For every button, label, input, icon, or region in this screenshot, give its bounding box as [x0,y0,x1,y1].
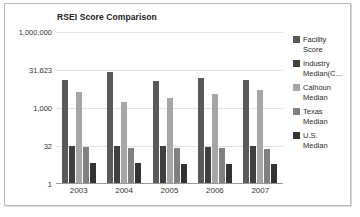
bar [167,98,173,185]
bar [69,146,75,184]
legend-swatch-icon [293,132,300,139]
chart-title: RSEI Score Comparison [57,12,157,22]
bar-group-2005 [147,32,192,184]
chart-legend: FacilityScoreIndustryMedian(C...CalhounM… [293,35,359,155]
bar [250,146,256,184]
bar [160,146,166,184]
x-axis-tick-label: 2003 [56,186,101,202]
bar-group-2003 [56,32,101,184]
plot-area [56,32,283,184]
bar [107,72,113,184]
bar [174,148,180,184]
bar [243,80,249,184]
bar [62,80,68,184]
x-axis-tick-label: 2007 [238,186,283,202]
bar [219,148,225,184]
bar-group-2006 [192,32,237,184]
y-axis-tick-label: 32 [44,141,52,150]
legend-label: IndustryMedian(C... [303,59,342,78]
bar [121,102,127,184]
x-axis-line [56,183,283,184]
bar-group-2004 [101,32,146,184]
legend-label: FacilityScore [303,35,326,54]
bar-group-2007 [238,32,283,184]
legend-swatch-icon [293,36,300,43]
x-axis-tick-label: 2004 [101,186,146,202]
legend-label: U.S.Median [303,131,328,150]
bar [271,164,277,184]
bars-layer [56,32,283,184]
bar [76,92,82,184]
bar [198,78,204,184]
y-axis-tick-label: 1 [48,180,52,189]
bar [212,94,218,184]
legend-swatch-icon [293,108,300,115]
bar [83,147,89,184]
bar [181,164,187,184]
y-axis-tick-label: 1,000,000 [19,28,52,37]
bar [257,90,263,184]
bar [128,148,134,184]
legend-item: TexasMedian [293,107,359,126]
legend-item: FacilityScore [293,35,359,54]
legend-swatch-icon [293,84,300,91]
bar [264,149,270,184]
bar [90,163,96,184]
bar [114,146,120,184]
legend-swatch-icon [293,60,300,67]
legend-item: U.S.Median [293,131,359,150]
legend-item: IndustryMedian(C... [293,59,359,78]
x-axis-tick-label: 2005 [147,186,192,202]
x-axis: 20032004200520062007 [56,186,283,202]
bar [153,81,159,184]
legend-label: CalhounMedian [303,83,331,102]
y-axis-tick-label: 1,000 [33,104,52,113]
x-axis-tick-label: 2006 [192,186,237,202]
chart-frame: RSEI Score Comparison 1,000,00031,6231,0… [4,3,351,206]
y-axis: 1,000,00031,6231,000321 [5,32,52,184]
legend-label: TexasMedian [303,107,328,126]
bar [226,164,232,184]
bar [135,163,141,184]
y-axis-tick-label: 31,623 [29,65,52,74]
legend-item: CalhounMedian [293,83,359,102]
bar [205,147,211,184]
